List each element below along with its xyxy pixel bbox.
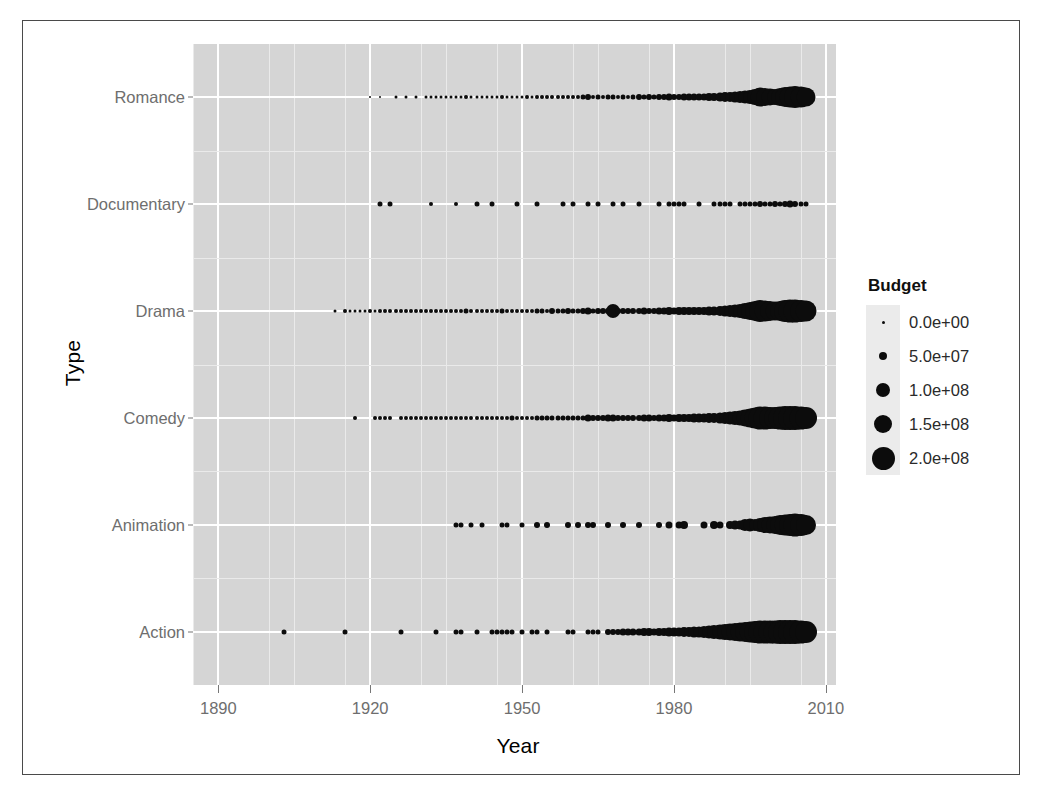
data-point xyxy=(419,309,423,313)
y-axis-tick-label: Action xyxy=(15,622,185,641)
data-point xyxy=(470,96,473,99)
data-point xyxy=(373,416,377,420)
grid-line-minor-horizontal xyxy=(193,258,836,259)
data-point xyxy=(374,310,377,313)
data-point xyxy=(394,96,397,99)
data-point xyxy=(480,416,484,420)
data-point xyxy=(504,522,509,527)
data-point xyxy=(414,96,417,99)
data-point xyxy=(348,310,351,313)
data-point xyxy=(626,95,630,99)
x-axis-title: Year xyxy=(193,734,843,758)
data-point xyxy=(495,309,499,313)
plot-area: Type Year RomanceDocumentaryDramaComedyA… xyxy=(23,21,1021,774)
data-point xyxy=(520,309,524,313)
data-point xyxy=(621,95,626,100)
data-point xyxy=(796,515,816,535)
data-point xyxy=(434,629,439,634)
data-point xyxy=(388,309,392,313)
data-point xyxy=(464,309,469,314)
data-point xyxy=(516,96,519,99)
data-point xyxy=(485,96,488,99)
data-point xyxy=(525,95,529,99)
data-point xyxy=(475,416,479,420)
data-point xyxy=(636,522,642,528)
data-point xyxy=(398,629,403,634)
data-point xyxy=(479,522,484,527)
data-point xyxy=(490,309,494,313)
data-point xyxy=(480,309,484,313)
data-point xyxy=(464,416,468,420)
chart-panel xyxy=(193,44,836,685)
y-axis-tick-label: Animation xyxy=(15,515,185,534)
data-point xyxy=(570,629,575,634)
data-point xyxy=(591,95,595,99)
data-point xyxy=(464,95,468,99)
data-point xyxy=(575,522,581,528)
data-point xyxy=(530,309,534,313)
data-point xyxy=(596,95,601,100)
data-point xyxy=(469,416,473,420)
data-point xyxy=(474,202,479,207)
data-point xyxy=(682,202,687,207)
data-point xyxy=(485,416,489,420)
x-axis-tick-mark xyxy=(826,685,827,693)
data-point xyxy=(444,416,448,420)
data-point xyxy=(383,416,387,420)
data-point xyxy=(383,309,387,313)
data-point xyxy=(455,96,458,99)
data-point xyxy=(469,309,473,313)
x-axis-tick-label: 1890 xyxy=(173,699,263,718)
data-point xyxy=(475,96,478,99)
data-point xyxy=(636,202,641,207)
data-point xyxy=(429,416,433,420)
data-point xyxy=(535,629,540,634)
data-point xyxy=(576,95,580,99)
data-point xyxy=(439,416,443,420)
data-point xyxy=(525,416,529,420)
data-point xyxy=(525,309,529,313)
data-point xyxy=(616,95,620,99)
legend-entry-label: 2.0e+08 xyxy=(909,449,969,468)
data-point xyxy=(333,310,336,313)
data-point xyxy=(534,522,540,528)
data-point xyxy=(545,95,549,99)
data-point xyxy=(499,309,504,314)
data-point xyxy=(665,521,672,528)
data-point xyxy=(566,95,570,99)
data-point xyxy=(505,309,509,313)
y-axis-tick-labels: RomanceDocumentaryDramaComedyAnimationAc… xyxy=(23,21,185,774)
figure-frame: Type Year RomanceDocumentaryDramaComedyA… xyxy=(22,20,1020,775)
legend-title: Budget xyxy=(868,276,1016,296)
data-point xyxy=(414,416,418,420)
data-point xyxy=(388,416,392,420)
legend-entry: 1.5e+08 xyxy=(866,407,1016,441)
data-point xyxy=(429,202,433,206)
data-point xyxy=(469,522,474,527)
data-point xyxy=(474,629,479,634)
data-point xyxy=(620,522,626,528)
x-axis-tick-mark xyxy=(522,685,523,693)
data-point xyxy=(621,202,626,207)
data-point xyxy=(495,96,498,99)
data-point xyxy=(434,416,438,420)
grid-line-minor-horizontal xyxy=(193,471,836,472)
legend-dot-icon xyxy=(879,352,887,360)
data-point xyxy=(535,95,539,99)
legend-entries: 0.0e+005.0e+071.0e+081.5e+082.0e+08 xyxy=(866,305,1016,475)
data-point xyxy=(509,415,514,420)
data-point xyxy=(445,96,448,99)
data-point xyxy=(490,416,494,420)
data-point xyxy=(419,416,423,420)
legend-entry: 1.0e+08 xyxy=(866,373,1016,407)
legend-dot-icon xyxy=(872,447,895,470)
data-point xyxy=(556,95,560,99)
data-point xyxy=(454,416,458,420)
data-point xyxy=(378,202,383,207)
data-point xyxy=(379,96,381,98)
data-point xyxy=(424,309,428,313)
data-point xyxy=(611,202,616,207)
data-point xyxy=(424,416,428,420)
data-point xyxy=(459,629,464,634)
data-point xyxy=(394,309,398,313)
